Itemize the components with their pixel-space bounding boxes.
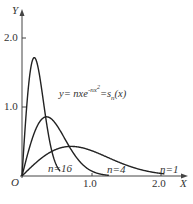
series-label-n1: n=1 <box>160 163 178 175</box>
formula-exp: -nx <box>88 86 97 94</box>
y-axis-label: Y <box>12 4 18 16</box>
x-tick-label-1: 1.0 <box>83 177 97 189</box>
y-tick-label-1: 1.0 <box>4 100 18 112</box>
formula-rhs: =s <box>100 88 111 99</box>
y-axis-arrow-icon <box>20 9 25 16</box>
origin-label: O <box>11 176 19 188</box>
x-axis-label: X <box>180 177 187 189</box>
series-label-n4: n=4 <box>107 163 125 175</box>
formula-tail: (x) <box>115 88 127 99</box>
formula-annotation: y= nxe-nx2=sn(x) <box>59 84 126 102</box>
y-tick-label-2: 2.0 <box>4 31 18 43</box>
x-tick-label-2: 2.0 <box>152 177 166 189</box>
series-label-n16: n=16 <box>48 162 72 174</box>
formula-lhs: y= nxe <box>59 88 88 99</box>
